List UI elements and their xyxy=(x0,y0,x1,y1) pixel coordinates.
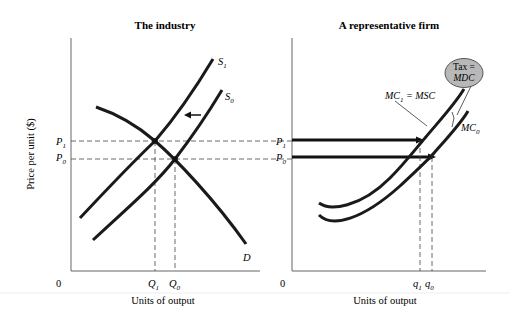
supply-curve-s1 xyxy=(80,59,213,218)
p1-label: P1 xyxy=(55,136,66,150)
tax-callout-line2: MDC xyxy=(452,73,475,83)
firm-panel: A representative firm P1 P0 Tax = MDC MC… xyxy=(275,19,486,306)
tax-callout-line1: Tax = xyxy=(453,62,475,72)
mc0-curve xyxy=(319,111,468,221)
s1-label: S1 xyxy=(218,56,227,70)
firm-x-axis-label: Units of output xyxy=(353,295,417,306)
q1-label: Q1 xyxy=(148,278,159,292)
s0-label: S0 xyxy=(225,91,234,105)
industry-title: The industry xyxy=(135,19,196,31)
tax-gap-bracket xyxy=(452,112,454,127)
q0-label: Q0 xyxy=(169,278,181,292)
firm-p1-label: P1 xyxy=(275,136,286,150)
q0-firm-label: q0 xyxy=(425,278,434,292)
mc0-label: MC0 xyxy=(460,122,480,136)
industry-panel: The industry Price per unit ($) S1 S0 D xyxy=(25,19,292,306)
diagram-canvas: The industry Price per unit ($) S1 S0 D xyxy=(0,0,510,316)
equilibrium-point-1 xyxy=(152,138,158,144)
q1-firm-label: q1 xyxy=(413,278,422,292)
p0-label: P0 xyxy=(55,152,66,166)
mc1-label: MC1 = MSC xyxy=(384,90,436,104)
mc1-leader-line xyxy=(395,101,427,126)
shift-left-arrow-icon xyxy=(184,112,201,119)
y-axis-label: Price per unit ($) xyxy=(25,118,37,190)
industry-x-axis-label: Units of output xyxy=(131,295,195,306)
firm-p0-label: P0 xyxy=(275,152,286,166)
firm-title: A representative firm xyxy=(339,19,439,31)
d-label: D xyxy=(242,252,251,263)
equilibrium-point-0 xyxy=(172,156,178,162)
mc1-msc-curve xyxy=(319,89,464,207)
firm-origin-label: 0 xyxy=(280,278,285,289)
industry-origin-label: 0 xyxy=(56,278,61,289)
